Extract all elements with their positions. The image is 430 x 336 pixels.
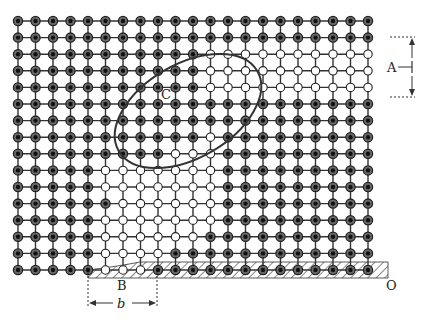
displaced-atom (189, 199, 197, 207)
displaced-atom (189, 233, 197, 241)
displaced-atom (311, 83, 319, 91)
atom-core (191, 19, 195, 23)
displaced-atom (329, 50, 337, 58)
atom-core (226, 102, 230, 106)
atom-core (366, 35, 370, 39)
atom-core (261, 235, 265, 239)
atom-core (226, 201, 230, 205)
atom-core (68, 135, 72, 139)
atom-core (16, 35, 20, 39)
atom-core (191, 251, 195, 255)
atom-core (156, 118, 160, 122)
atom-core (121, 85, 125, 89)
atom-core (296, 152, 300, 156)
displaced-atom (206, 83, 214, 91)
atom-core (173, 85, 177, 89)
atom-core (296, 218, 300, 222)
atom-core (16, 102, 20, 106)
atom-core (68, 235, 72, 239)
atom-core (16, 168, 20, 172)
atom-core (16, 85, 20, 89)
atom-core (313, 102, 317, 106)
atom-core (278, 102, 282, 106)
atom-core (156, 19, 160, 23)
displaced-atom (241, 67, 249, 75)
atom-core (243, 185, 247, 189)
displaced-atom (119, 166, 127, 174)
label-c: C (161, 87, 171, 102)
atom-core (296, 19, 300, 23)
atom-core (68, 52, 72, 56)
atom-core (156, 102, 160, 106)
displaced-atom (171, 183, 179, 191)
atom-core (331, 19, 335, 23)
atom-core (348, 218, 352, 222)
atom-core (86, 135, 90, 139)
atom-core (261, 251, 265, 255)
atom-core (156, 268, 160, 272)
atom-core (103, 52, 107, 56)
atom-core (86, 85, 90, 89)
atom-core (16, 235, 20, 239)
atom-core (261, 152, 265, 156)
atom-core (313, 185, 317, 189)
atom-core (348, 135, 352, 139)
atom-core (68, 268, 72, 272)
atom-core (68, 69, 72, 73)
atom-core (331, 218, 335, 222)
atom-core (173, 251, 177, 255)
atom-core (156, 135, 160, 139)
atom-core (191, 268, 195, 272)
atom-core (121, 19, 125, 23)
atom-core (191, 35, 195, 39)
atom-core (261, 19, 265, 23)
displaced-atom (206, 166, 214, 174)
atom-core (51, 85, 55, 89)
displaced-atom (329, 83, 337, 91)
atom-core (191, 69, 195, 73)
atom-core (331, 152, 335, 156)
displaced-atom (119, 216, 127, 224)
displaced-atom (154, 216, 162, 224)
label-b: B (117, 278, 127, 293)
atom-core (68, 251, 72, 255)
displaced-atom (101, 166, 109, 174)
displaced-atom (171, 216, 179, 224)
atom-core (51, 102, 55, 106)
atom-core (86, 218, 90, 222)
atom-core (33, 52, 37, 56)
atom-core (348, 35, 352, 39)
displaced-atom (101, 249, 109, 257)
displaced-atom (101, 233, 109, 241)
displaced-atom (119, 183, 127, 191)
atom-core (348, 168, 352, 172)
atom-core (68, 118, 72, 122)
atom-core (173, 135, 177, 139)
atom-core (16, 19, 20, 23)
atom-core (68, 102, 72, 106)
atom-core (261, 118, 265, 122)
atom-core (226, 168, 230, 172)
displaced-atom (171, 199, 179, 207)
atom-core (226, 268, 230, 272)
atom-core (331, 102, 335, 106)
atom-core (33, 185, 37, 189)
atom-core (296, 135, 300, 139)
atom-core (121, 35, 125, 39)
atom-core (51, 35, 55, 39)
displaced-atom (136, 183, 144, 191)
displaced-atom (101, 216, 109, 224)
atom-core (208, 251, 212, 255)
atom-core (173, 52, 177, 56)
atom-core (366, 168, 370, 172)
atom-core (313, 135, 317, 139)
atom-core (173, 118, 177, 122)
atom-core (313, 235, 317, 239)
atom-core (191, 52, 195, 56)
atom-core (33, 152, 37, 156)
atom-core (33, 35, 37, 39)
atom-core (68, 19, 72, 23)
atom-core (366, 268, 370, 272)
atom-core (33, 168, 37, 172)
atom-core (103, 118, 107, 122)
